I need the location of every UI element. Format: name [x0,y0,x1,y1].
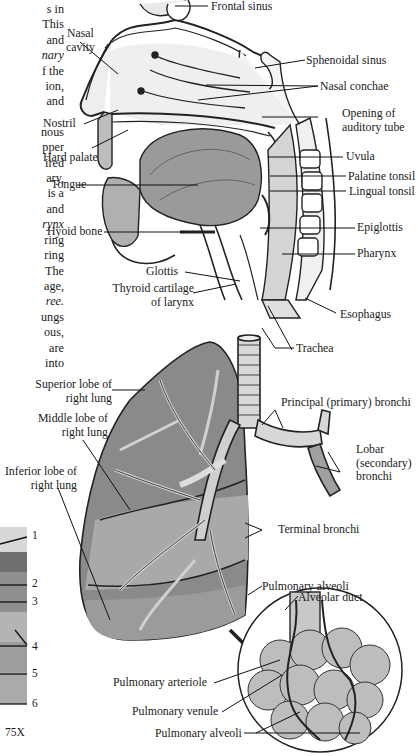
label-opening-auditory-line1: Opening of [342,107,405,121]
label-inferior-lobe: Inferior lobe of right lung [0,465,77,492]
label-tongue: Tongue [51,178,86,192]
label-hyoid-bone: Hyoid bone [47,225,102,239]
micrograph-label-5: 5 [32,667,38,679]
label-lobar-line1: Lobar [356,443,412,457]
label-middle-line2: right lung [30,426,108,440]
micrograph-label-3: 3 [32,595,38,607]
micrograph-magnification: 75X [5,726,25,738]
label-epiglottis: Epiglottis [357,221,403,235]
label-inferior-line1: Inferior lobe of [0,465,77,479]
label-trachea: Trachea [296,342,334,356]
label-nostril: Nostril [43,117,76,131]
label-glottis: Glottis [146,265,178,279]
label-lobar-line2: (secondary) [356,457,412,471]
label-esophagus: Esophagus [340,308,391,322]
head-sagittal-section [81,0,336,318]
label-hard-palate: Hard palate [43,151,98,165]
label-uvula: Uvula [346,150,375,164]
label-thyroid-line1: Thyroid cartilage [104,282,194,296]
micrograph-label-2: 2 [32,577,38,589]
label-nasal-conchae: Nasal conchae [320,80,388,94]
label-pharynx: Pharynx [357,247,396,261]
micrograph-label-4: 4 [32,640,38,652]
label-pulmonary-alveoli-bottom: Pulmonary alveoli [155,727,242,741]
micrograph-label-1: 1 [32,529,38,541]
label-terminal-bronchi: Terminal bronchi [278,523,359,537]
label-nasal-cavity: Nasal cavity [66,27,95,54]
label-inferior-line2: right lung [0,479,77,493]
alveoli-magnification [230,588,402,752]
micrograph-label-6: 6 [32,697,38,709]
label-pulmonary-venule: Pulmonary venule [132,705,218,719]
label-superior-line1: Superior lobe of [30,378,112,392]
label-lingual-tonsil: Lingual tonsil [349,185,415,199]
label-superior-lobe: Superior lobe of right lung [30,378,112,405]
label-sphenoidal-sinus: Sphenoidal sinus [306,54,386,68]
label-middle-lobe: Middle lobe of right lung [30,412,108,439]
label-superior-line2: right lung [30,392,112,406]
label-alveolar-duct: Alveolar duct [298,591,363,605]
label-nasal-cavity-line1: Nasal [66,27,95,41]
histology-micrograph [0,527,27,704]
label-middle-line1: Middle lobe of [30,412,108,426]
label-principal-bronchi: Principal (primary) bronchi [281,396,411,410]
label-lobar-line3: bronchi [356,470,412,484]
label-thyroid-cartilage: Thyroid cartilage of larynx [104,282,194,309]
label-thyroid-line2: of larynx [104,296,194,310]
label-palatine-tonsil: Palatine tonsil [348,170,415,184]
label-pulmonary-arteriole: Pulmonary arteriole [113,676,207,690]
label-opening-auditory-line2: auditory tube [342,121,405,135]
label-opening-auditory-tube: Opening of auditory tube [342,107,405,134]
label-lobar-bronchi: Lobar (secondary) bronchi [356,443,412,484]
label-nasal-cavity-line2: cavity [66,41,95,55]
label-frontal-sinus: Frontal sinus [211,0,272,14]
